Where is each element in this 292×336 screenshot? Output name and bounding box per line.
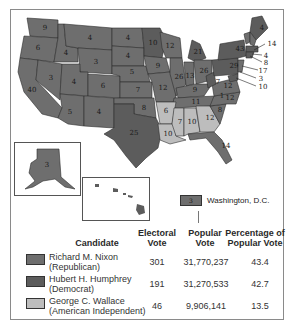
dc-label: Washington, D.C. [207, 196, 269, 205]
svg-text:13: 13 [186, 72, 195, 80]
svg-text:5: 5 [130, 68, 134, 76]
candidate-name: Richard M. Nixon(Republican) [49, 252, 118, 272]
svg-text:7: 7 [136, 86, 140, 94]
svg-text:9: 9 [43, 24, 47, 32]
header-electoral: ElectoralVote [132, 228, 182, 248]
svg-text:17: 17 [259, 67, 268, 75]
electoral-vote: 301 [144, 257, 170, 267]
svg-text:12: 12 [206, 114, 215, 122]
alaska-inset: 3 [14, 142, 81, 196]
percent-vote: 42.7 [240, 279, 280, 289]
popular-vote: 31,270,533 [176, 279, 236, 289]
header-candidate: Candidate [52, 238, 142, 248]
swatch-republican [26, 254, 45, 265]
swatch-democrat [26, 276, 45, 287]
svg-text:9: 9 [156, 62, 160, 70]
svg-text:12: 12 [166, 42, 175, 50]
percent-vote: 43.4 [240, 257, 280, 267]
svg-text:5: 5 [68, 108, 72, 116]
svg-text:4: 4 [97, 108, 102, 116]
electoral-vote: 46 [144, 301, 170, 311]
svg-text:29: 29 [230, 62, 239, 70]
svg-text:10: 10 [149, 39, 158, 47]
swatch-american-independent [26, 298, 45, 309]
legend-row-nixon: Richard M. Nixon(Republican) 301 31,770,… [18, 252, 282, 276]
svg-text:25: 25 [130, 129, 139, 137]
svg-text:26: 26 [175, 73, 184, 81]
svg-text:3: 3 [259, 75, 263, 83]
candidate-name: George C. Wallace(American Independent) [49, 296, 146, 316]
svg-text:26: 26 [200, 67, 209, 75]
svg-text:1: 1 [220, 92, 224, 100]
svg-text:12: 12 [226, 94, 235, 102]
svg-text:4: 4 [88, 34, 93, 42]
svg-text:12: 12 [224, 82, 233, 90]
svg-text:8: 8 [264, 59, 268, 67]
dc-key: 3 Washington, D.C. [180, 195, 269, 206]
popular-vote: 9,906,141 [176, 301, 236, 311]
dc-swatch: 3 [180, 195, 202, 206]
svg-text:21: 21 [194, 48, 203, 56]
svg-text:6: 6 [101, 82, 106, 90]
popular-vote: 31,770,237 [176, 257, 236, 267]
svg-text:8: 8 [218, 106, 222, 114]
svg-text:10: 10 [188, 118, 197, 126]
svg-text:7: 7 [216, 78, 220, 86]
svg-text:10: 10 [164, 130, 173, 138]
state-ak [25, 149, 75, 189]
svg-text:6: 6 [36, 44, 41, 52]
svg-text:4: 4 [64, 49, 69, 57]
svg-text:9: 9 [193, 86, 197, 94]
svg-text:14: 14 [268, 40, 277, 48]
svg-text:4: 4 [72, 78, 77, 86]
svg-text:7: 7 [178, 118, 182, 126]
svg-text:8: 8 [142, 104, 146, 112]
callout-labels: 14 4 8 17 3 10 [259, 40, 277, 91]
svg-text:6: 6 [164, 107, 169, 115]
svg-text:10: 10 [259, 83, 268, 91]
svg-text:3: 3 [49, 74, 53, 82]
svg-text:11: 11 [192, 98, 201, 106]
header-percentage: Percentage ofPopular Vote [220, 228, 290, 248]
candidate-name: Hubert H. Humphrey(Democrat) [49, 274, 132, 294]
svg-text:4: 4 [260, 24, 265, 32]
svg-text:4: 4 [126, 34, 131, 42]
hawaii-inset [82, 177, 150, 221]
legend-row-wallace: George C. Wallace(American Independent) … [18, 296, 282, 320]
electoral-vote: 191 [144, 279, 170, 289]
state-vt [244, 32, 250, 44]
svg-text:3: 3 [94, 58, 98, 66]
svg-text:4: 4 [126, 52, 131, 60]
percent-vote: 13.5 [240, 301, 280, 311]
legend-row-humphrey: Hubert H. Humphrey(Democrat) 191 31,270,… [18, 274, 282, 298]
svg-text:3: 3 [45, 161, 49, 169]
svg-text:14: 14 [222, 142, 231, 150]
svg-text:12: 12 [159, 84, 168, 92]
dc-leader-line [198, 211, 199, 223]
state-hi [95, 184, 145, 215]
svg-text:43: 43 [236, 45, 245, 53]
svg-text:40: 40 [28, 86, 37, 94]
